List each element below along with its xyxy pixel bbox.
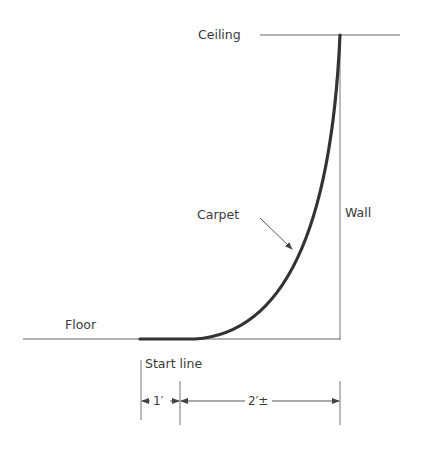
dimension-1ft-label: 1′ [153,394,164,408]
start-line-label: Start line [145,356,202,371]
carpet-pointer-arrow [260,218,292,249]
carpet-curve [140,35,340,339]
dimension-2ft-label: 2′± [248,394,268,408]
carpet-label: Carpet [197,207,239,222]
ceiling-label: Ceiling [198,27,241,42]
carpet-wall-diagram: Ceiling Wall Floor Carpet Start line 1′ … [0,0,421,453]
wall-label: Wall [345,205,371,220]
floor-label: Floor [65,317,97,332]
